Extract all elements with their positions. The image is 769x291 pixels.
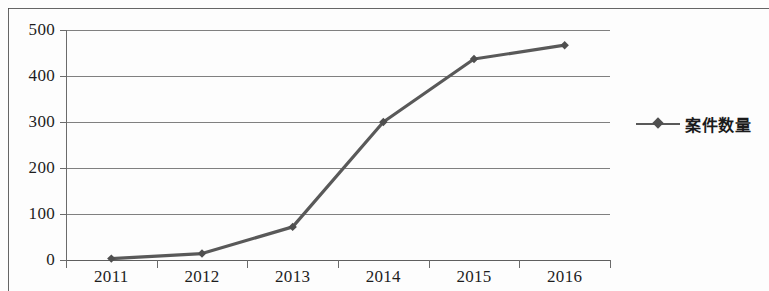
y-tick-400	[60, 76, 67, 77]
y-tick-label-300: 300	[29, 113, 55, 130]
series-line-案件数量	[111, 45, 564, 258]
data-point-2012	[198, 249, 206, 257]
y-tick-label-100: 100	[29, 205, 55, 222]
data-point-2015	[470, 55, 478, 63]
gridline-300	[66, 122, 610, 123]
x-tick-label-2016: 2016	[530, 268, 600, 287]
legend-diamond-icon	[652, 117, 663, 128]
y-tick-label-0: 0	[46, 251, 55, 268]
x-tick-2013	[338, 260, 339, 268]
x-tick-label-2011: 2011	[76, 268, 146, 287]
x-tick-2014	[429, 260, 430, 268]
figure-frame-top-border	[8, 8, 769, 9]
data-point-2013	[288, 223, 296, 231]
gridline-500	[66, 30, 610, 31]
y-tick-label-400: 400	[29, 67, 55, 84]
x-axis-end-cap-left	[66, 260, 67, 268]
y-tick-100	[60, 214, 67, 215]
x-tick-label-2014: 2014	[348, 268, 418, 287]
data-point-2016	[560, 41, 568, 49]
y-tick-500	[60, 30, 67, 31]
x-tick-2012	[247, 260, 248, 268]
series-markers	[107, 41, 569, 263]
x-tick-2015	[519, 260, 520, 268]
x-axis-end-cap-right	[610, 260, 611, 268]
chart-legend: 案件数量	[636, 112, 751, 136]
legend-label: 案件数量	[685, 112, 751, 136]
gridline-200	[66, 168, 610, 169]
y-tick-label-500: 500	[29, 21, 55, 38]
y-tick-label-200: 200	[29, 159, 55, 176]
figure-frame-left-border	[8, 8, 9, 291]
series-plot	[0, 0, 769, 291]
y-tick-300	[60, 122, 67, 123]
x-tick-label-2012: 2012	[167, 268, 237, 287]
x-tick-label-2013: 2013	[258, 268, 328, 287]
chart-figure: 0100200300400500 20112012201320142015201…	[0, 0, 769, 291]
gridline-400	[66, 76, 610, 77]
data-point-2011	[107, 254, 115, 262]
y-axis-line	[66, 30, 67, 260]
x-tick-2011	[157, 260, 158, 268]
y-tick-200	[60, 168, 67, 169]
x-tick-label-2015: 2015	[439, 268, 509, 287]
legend-line-diamond-marker-icon	[636, 117, 680, 131]
gridline-100	[66, 214, 610, 215]
